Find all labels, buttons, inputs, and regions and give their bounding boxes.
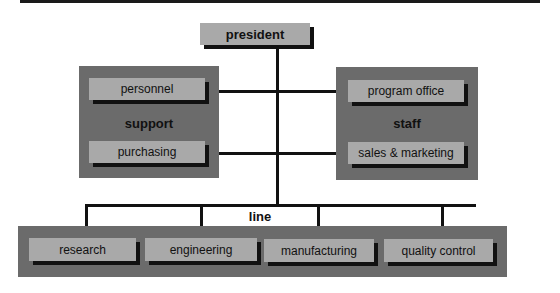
president-label: president: [226, 27, 285, 42]
line-label: line: [237, 209, 283, 224]
connector-personnel-program-office: [210, 90, 350, 93]
engineering-label: engineering: [170, 243, 233, 257]
connector-purchasing-sales: [210, 152, 350, 155]
program-office-box: program office: [348, 80, 464, 102]
manufacturing-label: manufacturing: [281, 244, 357, 258]
president-box: president: [200, 23, 310, 45]
research-box: research: [29, 238, 136, 261]
personnel-label: personnel: [121, 82, 174, 96]
research-label: research: [59, 243, 106, 257]
purchasing-box: purchasing: [89, 141, 205, 163]
connector-president-vertical: [276, 46, 279, 207]
quality-control-box: quality control: [384, 239, 493, 262]
staff-label: staff: [336, 116, 478, 131]
quality-control-label: quality control: [401, 244, 475, 258]
manufacturing-box: manufacturing: [264, 239, 374, 262]
support-label: support: [79, 116, 219, 131]
connector-line-horizontal: [86, 204, 476, 207]
engineering-box: engineering: [145, 238, 257, 261]
purchasing-label: purchasing: [118, 145, 177, 159]
personnel-box: personnel: [89, 78, 205, 100]
program-office-label: program office: [368, 84, 444, 98]
top-border-bar: [20, 0, 540, 3]
sales-marketing-label: sales & marketing: [358, 146, 453, 160]
sales-marketing-box: sales & marketing: [348, 142, 464, 164]
